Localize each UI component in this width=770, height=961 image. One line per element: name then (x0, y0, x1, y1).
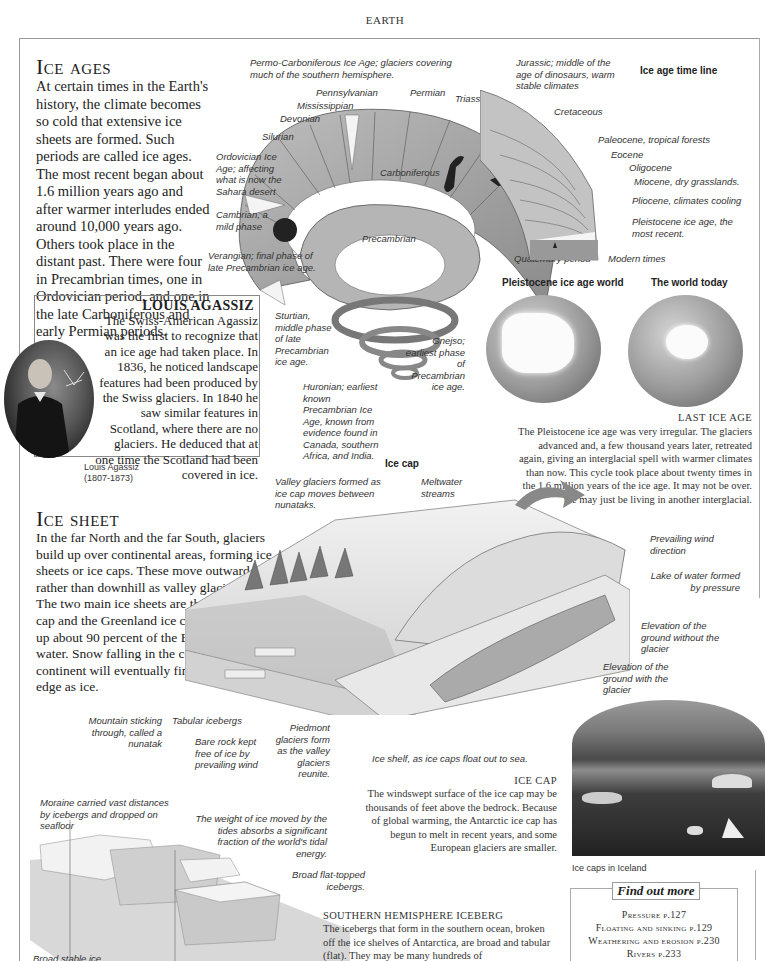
label-miocene: Miocene, dry grasslands. (634, 176, 740, 188)
label-precambrian: Precambrian (362, 233, 416, 245)
ice-cap-diagram-title: Ice cap (385, 458, 419, 469)
label-mississippian: Mississippian (297, 100, 354, 112)
ice-sheet-heading: Ice sheet (36, 508, 119, 530)
page-frame-top (19, 38, 759, 39)
label-silurian: Silurian (262, 131, 294, 143)
label-elev-with: Elevation of the ground with the glacier (603, 661, 683, 696)
label-huronian: Huronian; earliest known Precambrian Ice… (303, 381, 385, 462)
iceland-photo-caption: Ice caps in Iceland (572, 863, 647, 873)
ice-cap-block-diagram (185, 480, 630, 715)
label-piedmont: Piedmont glaciers form as the valley gla… (265, 722, 330, 780)
label-moraine: Moraine carried vast distances by iceber… (40, 797, 170, 832)
find-out-more-title-box: Find out more (612, 882, 700, 900)
agassiz-portrait (4, 340, 94, 458)
page-frame-right (759, 38, 760, 598)
label-verangian: Verangian; final phase of late Precambri… (208, 250, 328, 273)
agassiz-caption-name: Louis Agassiz (84, 462, 139, 472)
iceberg-shape (582, 792, 622, 804)
today-globe (628, 295, 743, 407)
label-jurassic: Jurassic; middle of the age of dinosaurs… (516, 57, 626, 92)
label-meltwater: Meltwater streams (421, 476, 476, 499)
label-mountain-nunatak: Mountain sticking through, called a nuna… (82, 715, 162, 750)
pleistocene-ice-sheet-shape (502, 313, 574, 373)
label-modern-times: Modern times (608, 253, 666, 265)
find-out-more-link[interactable]: Weathering and erosion p.230 (570, 934, 738, 947)
label-oligocene: Oligocene (629, 162, 672, 174)
find-out-more-links: Pressure p.127 Floating and sinking p.12… (570, 908, 738, 960)
timeline-title: Ice age time line (640, 65, 717, 76)
label-gnejso: Gnejso; earliest phase of Precambrian ic… (405, 335, 465, 393)
label-elev-without: Elevation of the ground without the glac… (641, 620, 721, 655)
today-ice-cap-shape (666, 325, 708, 359)
label-prevailing-wind: Prevailing wind direction (650, 533, 745, 556)
label-pennsylvanian: Pennsylvanian (316, 87, 378, 99)
southern-iceberg-heading: SOUTHERN HEMISPHERE ICEBERG (323, 910, 503, 921)
find-out-more-link[interactable]: Rivers p.233 (570, 947, 738, 960)
iceberg-shape (722, 818, 744, 838)
agassiz-caption-dates: (1807-1873) (84, 473, 133, 483)
last-ice-age-heading: LAST ICE AGE (540, 412, 752, 423)
label-broad-flat-topped: Broad flat-topped icebergs. (285, 869, 365, 892)
label-eocene: Eocene (611, 149, 643, 161)
label-ordovician: Ordovician Ice Age; affecting what is no… (216, 151, 291, 197)
label-devonian: Devonian (280, 113, 320, 125)
agassiz-portrait-figure-icon (4, 340, 94, 458)
page-frame-right-lower (755, 870, 756, 960)
find-out-more-link[interactable]: Floating and sinking p.129 (570, 921, 738, 934)
iceberg-shape (687, 826, 703, 835)
label-ice-shelf: Ice shelf, as ice caps float out to sea. (372, 753, 528, 765)
globe-left-title: Pleistocene ice age world (502, 277, 624, 288)
find-out-more-link[interactable]: Pressure p.127 (570, 908, 738, 921)
label-paleocene: Paleocene, tropical forests (598, 134, 710, 146)
label-carboniferous: Carboniferous (380, 167, 440, 179)
ice-ages-heading: Ice ages (36, 56, 111, 78)
page-frame-left (19, 38, 20, 961)
pleistocene-globe (486, 295, 601, 403)
page-header: EARTH (0, 14, 770, 26)
label-permian: Permian (410, 87, 445, 99)
label-bare-rock: Bare rock kept free of ice by prevailing… (195, 736, 260, 771)
label-cambrian: Cambrian, a mild phase (216, 209, 271, 232)
label-permo-carboniferous: Permo-Carboniferous Ice Age; glaciers co… (250, 57, 460, 80)
label-tabular-icebergs: Tabular icebergs (172, 715, 242, 727)
ice-cap-heading: ICE CAP (400, 775, 557, 786)
label-pliocene: Pliocene, climates cooling (632, 195, 741, 207)
timeline-cenozoic-wedge-illustration (480, 90, 610, 270)
label-pleistocene: Pleistocene ice age, the most recent. (632, 216, 742, 239)
iceberg-shape (712, 774, 752, 788)
label-sturtian: Sturtian, middle phase of late Precambri… (275, 310, 335, 368)
ice-cap-body: The windswept surface of the ice cap may… (365, 787, 557, 855)
iceland-photo (572, 700, 765, 856)
label-broad-stable: Broad stable ice (33, 953, 133, 961)
label-lake: Lake of water formed by pressure (645, 570, 740, 593)
label-tidal-weight: The weight of ice moved by the tides abs… (193, 813, 327, 859)
globe-right-title: The world today (651, 277, 728, 288)
southern-iceberg-body: The icebergs that form in the southern o… (323, 922, 555, 961)
label-valley-glaciers: Valley glaciers formed as ice cap moves … (275, 476, 385, 511)
